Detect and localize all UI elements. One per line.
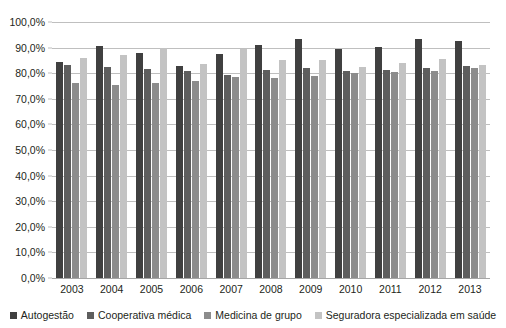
bar-group xyxy=(251,22,291,278)
bar xyxy=(415,39,422,278)
bar xyxy=(96,46,103,278)
bar xyxy=(152,83,159,278)
bar xyxy=(471,68,478,278)
y-axis-tick-label: 40,0% xyxy=(15,170,45,181)
plot-area xyxy=(52,22,490,278)
x-axis-tick-label: 2007 xyxy=(211,280,251,298)
bar xyxy=(224,75,231,278)
x-axis: 2003200420052006200720082009201020112012… xyxy=(52,280,490,298)
axis-baseline xyxy=(52,278,490,279)
bar-group xyxy=(410,22,450,278)
bar xyxy=(375,47,382,278)
x-axis-tick-label: 2006 xyxy=(171,280,211,298)
bar xyxy=(240,49,247,278)
legend-swatch-icon xyxy=(204,312,211,319)
legend-label: Cooperativa médica xyxy=(98,310,191,321)
bar-group xyxy=(331,22,371,278)
bar xyxy=(383,70,390,278)
legend-swatch-icon xyxy=(87,312,94,319)
bar xyxy=(359,67,366,278)
bar xyxy=(335,49,342,278)
bar xyxy=(80,58,87,278)
legend-swatch-icon xyxy=(315,312,322,319)
bar xyxy=(399,63,406,278)
bar xyxy=(295,39,302,278)
bar-groups xyxy=(52,22,490,278)
bar xyxy=(216,54,223,278)
x-axis-tick-label: 2009 xyxy=(291,280,331,298)
legend-swatch-icon xyxy=(10,312,17,319)
bar xyxy=(439,59,446,278)
legend-label: Autogestão xyxy=(21,310,74,321)
bar-group xyxy=(132,22,172,278)
y-axis-tick-label: 20,0% xyxy=(15,222,45,233)
legend-item[interactable]: Medicina de grupo xyxy=(204,310,301,321)
y-axis-tick-label: 90,0% xyxy=(15,42,45,53)
x-axis-tick-label: 2003 xyxy=(52,280,92,298)
x-axis-tick-label: 2010 xyxy=(331,280,371,298)
legend-item[interactable]: Cooperativa médica xyxy=(87,310,191,321)
bar-group xyxy=(52,22,92,278)
bar xyxy=(144,69,151,278)
x-axis-tick-label: 2012 xyxy=(410,280,450,298)
bar xyxy=(176,66,183,278)
bar xyxy=(319,60,326,278)
bar xyxy=(303,68,310,278)
bar-group xyxy=(211,22,251,278)
bar-group xyxy=(92,22,132,278)
legend-item[interactable]: Autogestão xyxy=(10,310,74,321)
y-axis-tick-label: 30,0% xyxy=(15,196,45,207)
bar xyxy=(64,65,71,279)
x-axis-tick-label: 2004 xyxy=(92,280,132,298)
y-axis: 100,0%90,0%80,0%70,0%60,0%50,0%40,0%30,0… xyxy=(0,0,52,300)
bar-group xyxy=(291,22,331,278)
bar xyxy=(463,66,470,278)
bar xyxy=(104,67,111,278)
bar xyxy=(351,73,358,278)
bar xyxy=(479,65,486,278)
bar-group xyxy=(450,22,490,278)
bar xyxy=(56,62,63,278)
y-axis-tick-label: 70,0% xyxy=(15,94,45,105)
bar xyxy=(263,70,270,278)
y-axis-tick-label: 0,0% xyxy=(21,273,45,284)
bar xyxy=(136,53,143,278)
legend-item[interactable]: Seguradora especializada em saúde xyxy=(315,310,496,321)
x-axis-tick-label: 2005 xyxy=(132,280,172,298)
bar xyxy=(279,60,286,278)
chart-legend: AutogestãoCooperativa médicaMedicina de … xyxy=(0,305,506,325)
bar xyxy=(120,55,127,278)
bar xyxy=(200,64,207,278)
y-axis-tick-label: 50,0% xyxy=(15,145,45,156)
bar-group xyxy=(171,22,211,278)
legend-label: Medicina de grupo xyxy=(215,310,301,321)
bar xyxy=(423,68,430,278)
bar xyxy=(431,71,438,278)
bar-chart: 100,0%90,0%80,0%70,0%60,0%50,0%40,0%30,0… xyxy=(0,0,506,328)
bar xyxy=(391,72,398,278)
x-axis-tick-label: 2008 xyxy=(251,280,291,298)
y-axis-tick-label: 100,0% xyxy=(9,17,45,28)
bar xyxy=(232,77,239,278)
bar xyxy=(343,71,350,278)
x-axis-tick-label: 2013 xyxy=(450,280,490,298)
bar xyxy=(255,45,262,278)
bar xyxy=(455,41,462,278)
bar xyxy=(311,76,318,278)
bar xyxy=(160,48,167,278)
y-axis-tick-label: 10,0% xyxy=(15,247,45,258)
bar xyxy=(271,78,278,278)
bar xyxy=(112,85,119,278)
bar-group xyxy=(371,22,411,278)
bar xyxy=(192,81,199,278)
y-axis-tick-label: 60,0% xyxy=(15,119,45,130)
bar xyxy=(72,83,79,278)
legend-label: Seguradora especializada em saúde xyxy=(326,310,496,321)
bar xyxy=(184,71,191,278)
x-axis-tick-label: 2011 xyxy=(371,280,411,298)
y-axis-tick-label: 80,0% xyxy=(15,68,45,79)
